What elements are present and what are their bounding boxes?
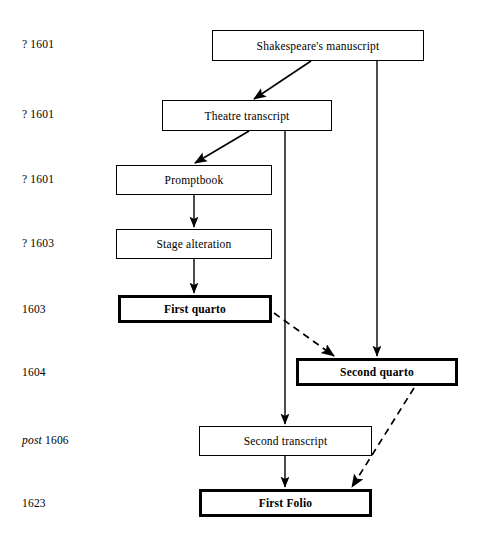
date-label-1601-a: ?1601: [22, 38, 54, 50]
date-label-1603-b: 1603: [22, 303, 46, 315]
date-year: 1603: [30, 237, 54, 249]
node-first-folio[interactable]: First Folio: [199, 489, 372, 517]
date-year: 1606: [45, 434, 69, 446]
node-first-quarto[interactable]: First quarto: [118, 295, 272, 323]
date-year: 1604: [22, 366, 46, 378]
node-promptbook[interactable]: Promptbook: [116, 165, 272, 195]
stemma-diagram: ?1601 ?1601 ?1601 ?1603 1603 1604 post16…: [0, 0, 478, 543]
date-year: 1601: [30, 38, 54, 50]
date-year: 1603: [22, 303, 46, 315]
date-label-post-1606: post1606: [22, 434, 69, 446]
date-prefix: ?: [22, 237, 27, 249]
node-second-quarto[interactable]: Second quarto: [296, 358, 458, 386]
edge-theatre-to-promptbook: [195, 131, 249, 163]
diagram-edges-layer: [0, 0, 478, 543]
date-label-1604: 1604: [22, 366, 46, 378]
edge-manuscript-to-theatre: [254, 61, 311, 99]
date-label-1623: 1623: [22, 497, 46, 509]
date-year: 1601: [30, 108, 54, 120]
date-prefix-post: post: [22, 434, 42, 446]
date-prefix: ?: [22, 38, 27, 50]
date-year: 1623: [22, 497, 46, 509]
date-prefix: ?: [22, 108, 27, 120]
node-stage-alteration[interactable]: Stage alteration: [116, 229, 272, 259]
node-theatre-transcript[interactable]: Theatre transcript: [162, 100, 332, 131]
date-label-1601-c: ?1601: [22, 173, 54, 185]
node-shakespeares-manuscript[interactable]: Shakespeare's manuscript: [212, 30, 424, 61]
date-label-1601-b: ?1601: [22, 108, 54, 120]
date-label-1603-a: ?1603: [22, 237, 54, 249]
date-prefix: ?: [22, 173, 27, 185]
date-year: 1601: [30, 173, 54, 185]
edge-first-quarto-to-second-quarto: [274, 313, 334, 356]
node-second-transcript[interactable]: Second transcript: [199, 426, 372, 456]
